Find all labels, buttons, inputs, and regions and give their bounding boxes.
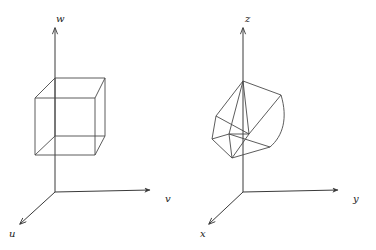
axis-v-line	[55, 190, 150, 192]
axis-label-v: v	[165, 193, 171, 204]
axis-label-y: y	[352, 193, 359, 204]
left-cube-wireframe	[35, 78, 105, 155]
deformed-edge-b	[249, 95, 281, 134]
cube-back-face	[55, 78, 105, 136]
right-deformed-cube-wireframe	[212, 81, 284, 158]
deformed-edge-a	[216, 81, 243, 116]
deformed-far-face	[229, 81, 284, 147]
deformed-edge-d	[212, 134, 229, 139]
axis-y-line	[243, 190, 338, 192]
right-axes	[209, 28, 338, 224]
axis-x-line	[209, 192, 243, 224]
deformed-edge-f	[243, 81, 249, 134]
cube-edge-tl	[35, 78, 55, 98]
axis-u-line	[20, 192, 55, 224]
axis-label-w: w	[56, 13, 65, 24]
figure-canvas: w v u z y	[0, 0, 376, 250]
cube-edge-br	[95, 136, 105, 155]
deformed-edge-c	[232, 147, 270, 158]
left-axes	[20, 28, 150, 224]
cube-edge-bl	[35, 136, 55, 155]
axis-label-z: z	[244, 13, 251, 24]
axis-label-x: x	[200, 228, 206, 239]
deformed-edge-g	[229, 134, 232, 158]
cube-edge-tr	[95, 78, 105, 98]
axis-label-u: u	[9, 228, 15, 239]
left-figure-uvw: w v u z y	[0, 0, 376, 250]
